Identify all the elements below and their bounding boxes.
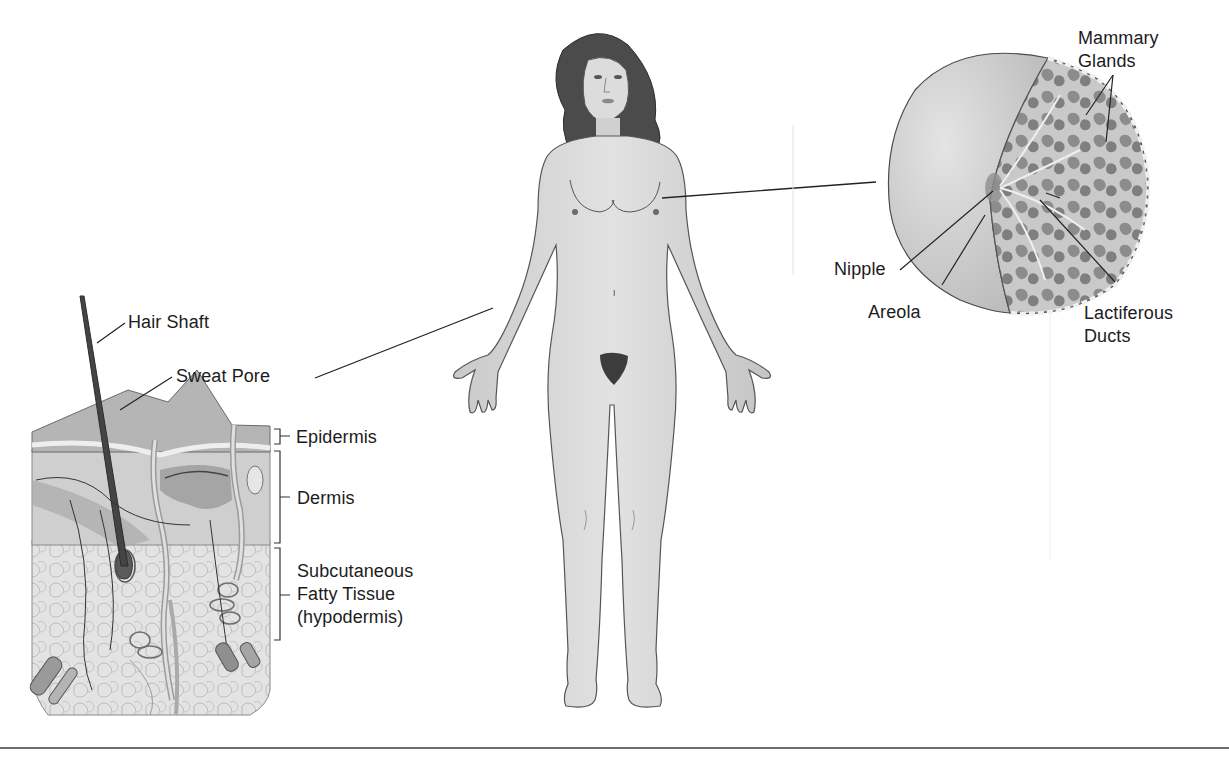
anatomy-diagram: Hair Shaft Sweat Pore Epidermis Dermis S… — [0, 0, 1229, 760]
label-hypodermis-1: Subcutaneous — [297, 561, 413, 582]
label-hypodermis-3: (hypodermis) — [297, 607, 403, 628]
female-figure — [454, 34, 771, 708]
label-mammary-1: Mammary — [1078, 28, 1159, 49]
bottom-divider — [0, 747, 1229, 749]
label-lactiferous-1: Lactiferous — [1084, 303, 1173, 324]
face — [583, 58, 628, 122]
body-outline — [454, 136, 771, 707]
leader-breast-to-detail — [662, 182, 876, 198]
nipple-right — [653, 209, 659, 215]
label-sweat-pore: Sweat Pore — [176, 366, 270, 387]
layer-brackets — [274, 429, 290, 640]
breast-cross-section — [888, 53, 1148, 313]
label-hypodermis-2: Fatty Tissue — [297, 584, 395, 605]
label-lactiferous-2: Ducts — [1084, 326, 1131, 347]
label-areola: Areola — [868, 302, 921, 323]
label-hair-shaft: Hair Shaft — [128, 312, 209, 333]
label-dermis: Dermis — [297, 488, 355, 509]
label-epidermis: Epidermis — [296, 427, 377, 448]
label-mammary-2: Glands — [1078, 51, 1136, 72]
skin-cross-section — [27, 296, 290, 715]
label-nipple: Nipple — [834, 259, 886, 280]
